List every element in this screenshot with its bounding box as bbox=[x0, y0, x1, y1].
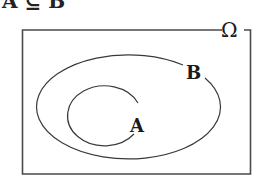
caption-subset-relation: A ⊆ B bbox=[1, 0, 65, 13]
venn-diagram-svg: A ⊆ B Ω B A bbox=[0, 0, 267, 186]
set-a-label: A bbox=[129, 115, 145, 136]
universe-label-omega: Ω bbox=[221, 18, 238, 42]
set-a-ellipse bbox=[68, 86, 138, 146]
set-b-label: B bbox=[186, 62, 201, 83]
universe-rectangle bbox=[23, 30, 251, 174]
venn-diagram: A ⊆ B Ω B A bbox=[0, 0, 267, 186]
